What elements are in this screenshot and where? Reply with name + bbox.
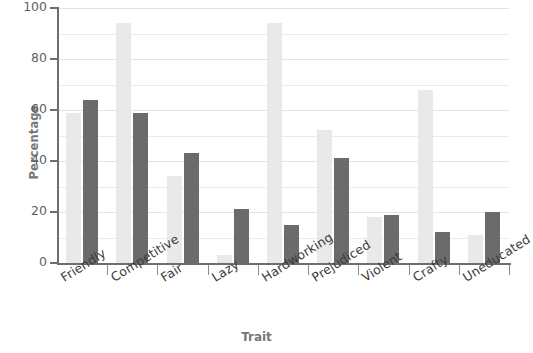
y-axis-tick-label: 100 xyxy=(0,1,47,14)
x-axis-title: Trait xyxy=(0,330,513,344)
x-axis-tick xyxy=(409,265,410,275)
y-axis-tick xyxy=(50,160,57,162)
x-axis-tick xyxy=(509,265,510,275)
bar-hardworking-light xyxy=(267,23,282,263)
y-axis-spine xyxy=(57,7,59,264)
bar-violent-light xyxy=(367,217,382,263)
y-axis-tick-label: 80 xyxy=(0,52,47,65)
y-axis-tick-label: 60 xyxy=(0,103,47,116)
y-axis-tick-label: 20 xyxy=(0,205,47,218)
bar-competitive-light xyxy=(116,23,131,263)
bar-competitive-dark xyxy=(133,113,148,263)
y-axis-tick xyxy=(50,58,57,60)
plot-area xyxy=(57,8,509,263)
bar-friendly-dark xyxy=(83,100,98,263)
bar-crafty-light xyxy=(418,90,433,263)
y-axis-title: Percentage xyxy=(27,62,41,222)
y-axis-tick-label: 0 xyxy=(0,256,47,269)
x-axis-tick xyxy=(208,265,209,275)
x-axis-tick xyxy=(459,265,460,275)
bar-friendly-light xyxy=(66,113,81,263)
bar-fair-dark xyxy=(184,153,199,263)
y-axis-tick xyxy=(50,211,57,213)
y-axis-tick xyxy=(50,7,57,9)
x-axis-tick xyxy=(258,265,259,275)
y-axis-tick xyxy=(50,109,57,111)
bar-lazy-dark xyxy=(234,209,249,263)
gridline xyxy=(57,8,509,9)
y-axis-tick xyxy=(50,262,57,264)
y-axis-tick-label: 40 xyxy=(0,154,47,167)
